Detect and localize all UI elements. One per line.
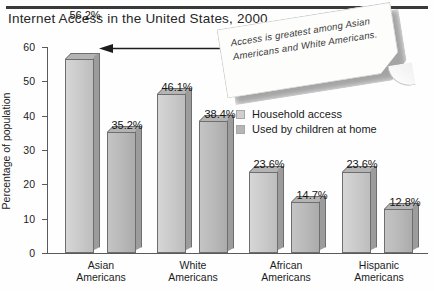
bar-african-children [291,202,320,253]
legend-item-children: Used by children at home [236,123,377,135]
bar-side-face [136,126,142,250]
bar-side-face [186,88,192,250]
note-curled-corner-icon [387,62,415,89]
bar-side-face [413,203,419,250]
bar-front-face [107,132,136,253]
category-line-2: Americans [168,271,218,283]
y-tick-0: 0 [42,253,47,254]
chart-legend: Household access Used by children at hom… [236,108,377,138]
bar-asian-household [65,59,94,253]
y-tick-30: 30 [42,150,47,151]
x-category-label-african: African Americans [261,259,311,283]
bar-side-face [371,166,377,250]
x-category-label-asian: Asian Americans [76,259,126,283]
y-tick-10: 10 [42,219,47,220]
legend-label-children: Used by children at home [252,123,377,135]
bar-front-face [291,202,320,253]
x-axis-line [47,253,428,254]
y-tick-label-30: 30 [23,144,35,156]
legend-swatch-icon [236,125,245,134]
y-tick-label-50: 50 [23,75,35,87]
bar-side-face [228,114,234,250]
value-label-asian-household: 56.2% [69,9,100,21]
x-category-label-white: White Americans [168,259,218,283]
category-line-1: White [168,259,218,271]
legend-label-household: Household access [252,108,342,120]
bar-side-face [94,53,100,250]
x-category-label-hispanic: Hispanic Americans [354,259,404,283]
y-tick-label-20: 20 [23,178,35,190]
bar-white-children [199,121,228,254]
bar-side-face [278,166,284,250]
value-label-african-household: 23.6% [253,158,284,170]
y-tick-50: 50 [42,81,47,82]
bar-front-face [65,59,94,253]
bar-front-face [157,94,186,253]
y-tick-60: 60 [42,47,47,48]
y-tick-label-40: 40 [23,110,35,122]
bar-asian-children [107,132,136,253]
category-line-1: Hispanic [354,259,404,271]
y-tick-label-0: 0 [29,247,35,259]
y-tick-label-10: 10 [23,213,35,225]
y-tick-40: 40 [42,116,47,117]
y-axis-line [47,47,48,254]
bar-white-household [157,94,186,253]
value-label-hispanic-household: 23.6% [346,158,377,170]
bar-side-face [320,196,326,250]
category-line-2: Americans [261,271,311,283]
value-label-african-children: 14.7% [296,189,327,201]
annotation-arrow-icon [99,43,227,54]
bar-front-face [199,121,228,254]
y-axis-title: Percentage of population [0,92,12,209]
bar-african-household [249,172,278,253]
category-line-2: Americans [76,271,126,283]
category-line-1: African [261,259,311,271]
bar-front-face [384,209,413,253]
value-label-asian-children: 35.2% [111,119,142,131]
bar-hispanic-children [384,209,413,253]
y-tick-20: 20 [42,184,47,185]
bar-hispanic-household [342,172,371,253]
bar-front-face [342,172,371,253]
value-label-white-household: 46.1% [161,81,192,93]
bar-front-face [249,172,278,253]
chart-page: Internet Access in the United States, 20… [0,0,434,291]
category-line-2: Americans [354,271,404,283]
value-label-hispanic-children: 12.8% [389,196,420,208]
category-line-1: Asian [76,259,126,271]
y-tick-label-60: 60 [23,41,35,53]
